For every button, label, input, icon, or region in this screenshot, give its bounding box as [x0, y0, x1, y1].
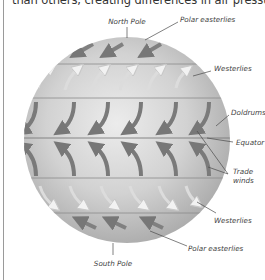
label-south-pole: South Pole	[94, 259, 133, 268]
label-equator: Equator	[236, 138, 265, 147]
label-westerlies-north: Westerlies	[214, 64, 252, 73]
label-polar-easterlies-north: Polar easterlies	[180, 15, 236, 24]
label-trade-winds-line1: Trade	[233, 167, 254, 176]
label-polar-easterlies-south: Polar easterlies	[188, 244, 244, 253]
label-trade-winds-line2: winds	[233, 176, 254, 185]
wind-belts-diagram: North Pole Polar easterlies Westerlies D…	[0, 0, 265, 280]
globe	[24, 37, 230, 243]
label-westerlies-south: Westerlies	[214, 216, 252, 225]
label-north-pole: North Pole	[108, 17, 146, 26]
label-doldrums: Doldrums	[231, 108, 265, 117]
